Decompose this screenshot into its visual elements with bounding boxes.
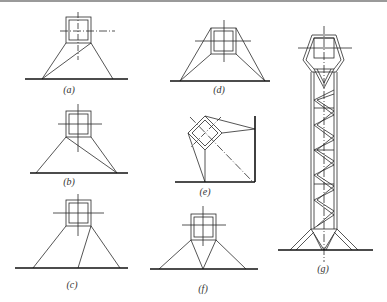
panel-g: [278, 26, 373, 262]
label-c: (c): [66, 279, 77, 290]
guy-wire-diagram: [0, 0, 387, 302]
label-b: (b): [63, 176, 75, 187]
label-e: (e): [199, 186, 210, 197]
panel-d: [170, 20, 270, 81]
panel-f: [150, 206, 258, 269]
panel-b: [30, 104, 128, 173]
panel-c: [15, 194, 128, 268]
label-g: (g): [317, 263, 329, 274]
panel-e: [175, 116, 255, 182]
label-d: (d): [213, 84, 225, 95]
panel-a: [25, 12, 128, 79]
label-f: (f): [198, 283, 207, 294]
label-a: (a): [63, 84, 75, 95]
